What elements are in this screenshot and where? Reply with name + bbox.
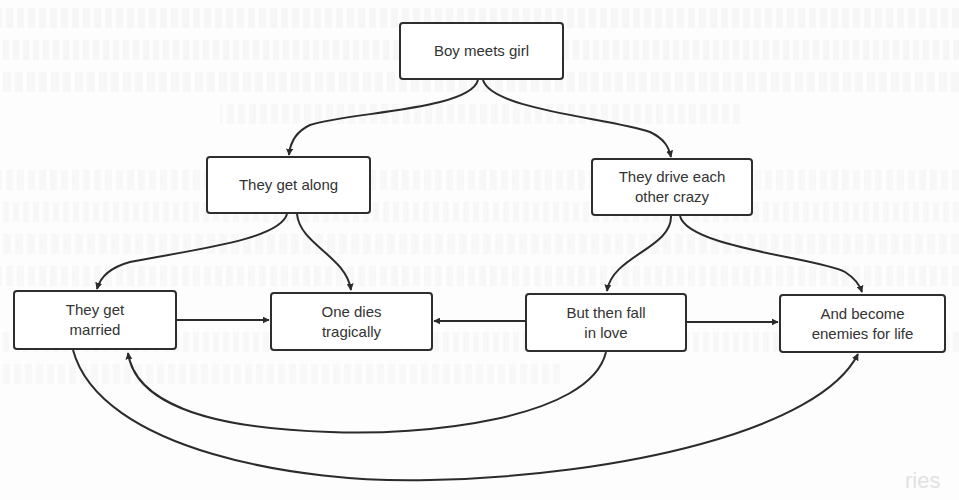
node-label-line2: in love [584, 323, 627, 343]
node-label: They get along [239, 175, 338, 195]
edge-boy-to-crazy [483, 80, 671, 157]
edge-married-to-enemies [73, 350, 858, 480]
node-they-drive-each-other-crazy: They drive each other crazy [591, 158, 753, 216]
node-label-line2: other crazy [635, 187, 709, 207]
node-boy-meets-girl: Boy meets girl [399, 22, 564, 80]
node-label-line2: enemies for life [812, 324, 914, 344]
edge-boy-to-along [289, 80, 478, 155]
edge-along-to-dies [297, 214, 351, 290]
node-they-get-along: They get along [206, 156, 371, 214]
node-label-line2: tragically [322, 322, 381, 342]
node-label-line1: But then fall [566, 303, 645, 323]
node-label-line1: And become [820, 304, 904, 324]
edge-crazy-to-enemies [680, 216, 862, 292]
edge-crazy-to-love [607, 216, 671, 291]
node-one-dies-tragically: One dies tragically [270, 292, 433, 351]
node-label: Boy meets girl [434, 41, 529, 61]
node-and-become-enemies-for-life: And become enemies for life [779, 294, 946, 353]
edge-love-to-married [128, 352, 606, 433]
node-label-line1: They get [66, 300, 124, 320]
node-label-line1: One dies [321, 302, 381, 322]
node-label-line2: married [70, 320, 121, 340]
node-they-get-married: They get married [13, 290, 177, 350]
node-but-then-fall-in-love: But then fall in love [525, 293, 687, 352]
node-label-line1: They drive each [619, 167, 726, 187]
edge-along-to-married [97, 214, 287, 289]
